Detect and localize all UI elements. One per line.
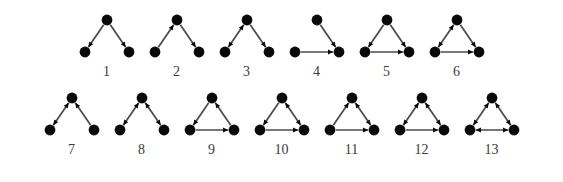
motif-9-label: 9 — [208, 143, 215, 157]
motif-12: 12 — [389, 86, 455, 158]
motif-6-graph-icon — [424, 8, 490, 64]
motif-8: 8 — [109, 86, 175, 158]
motif-6: 6 — [424, 8, 490, 80]
motif-9-graph-icon — [179, 86, 245, 142]
motif-2-label: 2 — [173, 65, 180, 79]
motif-2-graph-icon — [144, 8, 210, 64]
triad-motif-figure: 123456 78910111213 — [0, 0, 563, 182]
motif-2: 2 — [144, 8, 210, 80]
motif-12-graph-icon — [389, 86, 455, 142]
motif-8-graph-icon — [109, 86, 175, 142]
motif-6-label: 6 — [453, 65, 460, 79]
motif-9: 9 — [179, 86, 245, 158]
motif-7: 7 — [39, 86, 105, 158]
motif-10: 10 — [249, 86, 315, 158]
motif-3: 3 — [214, 8, 280, 80]
motif-1: 1 — [74, 8, 140, 80]
motif-12-label: 12 — [415, 143, 429, 157]
motif-10-label: 10 — [275, 143, 289, 157]
motif-5-graph-icon — [354, 8, 420, 64]
motif-7-label: 7 — [68, 143, 75, 157]
motif-5-label: 5 — [383, 65, 390, 79]
motif-row-1: 123456 — [0, 8, 563, 80]
motif-13: 13 — [459, 86, 525, 158]
motif-1-label: 1 — [103, 65, 110, 79]
motif-4-graph-icon — [284, 8, 350, 64]
motif-row-2: 78910111213 — [0, 86, 563, 158]
motif-7-graph-icon — [39, 86, 105, 142]
motif-3-graph-icon — [214, 8, 280, 64]
motif-1-graph-icon — [74, 8, 140, 64]
motif-11-graph-icon — [319, 86, 385, 142]
motif-11: 11 — [319, 86, 385, 158]
motif-13-label: 13 — [485, 143, 499, 157]
motif-4-label: 4 — [313, 65, 320, 79]
motif-10-graph-icon — [249, 86, 315, 142]
motif-3-label: 3 — [243, 65, 250, 79]
motif-8-label: 8 — [138, 143, 145, 157]
motif-13-graph-icon — [459, 86, 525, 142]
motif-4: 4 — [284, 8, 350, 80]
motif-5: 5 — [354, 8, 420, 80]
motif-11-label: 11 — [345, 143, 358, 157]
